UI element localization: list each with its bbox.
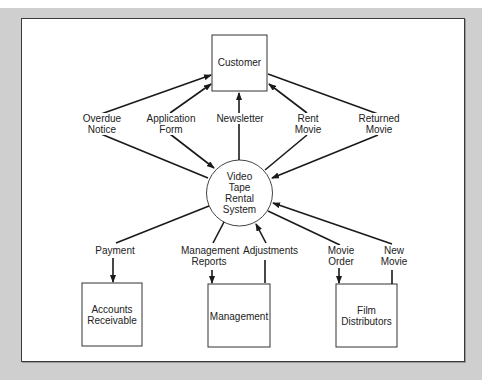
overdue-line-1: Overdue	[83, 113, 121, 124]
flow-application-form-upper	[170, 84, 211, 113]
appform-line-1: Application	[147, 113, 196, 124]
mgmtreports-line-1: Management	[181, 245, 239, 256]
mgmtreports-line-2: Reports	[191, 256, 226, 267]
film-distributors-label: Film Distributors	[336, 305, 397, 327]
movieorder-line-2: Order	[328, 256, 354, 267]
flow-application-form-lower	[170, 134, 214, 168]
rent-movie-label: Rent Movie	[290, 113, 326, 135]
returned-movie-label: Returned Movie	[353, 113, 405, 135]
flow-adjustments-upper	[256, 224, 266, 243]
returned-line-1: Returned	[358, 113, 399, 124]
accounts-receivable-line-1: Accounts	[91, 304, 132, 315]
newsletter-label: Newsletter	[211, 113, 269, 124]
flow-payment-upper	[116, 206, 209, 243]
overdue-notice-label: Overdue Notice	[74, 113, 130, 135]
flow-returned-movie-upper	[268, 74, 378, 114]
payment-text: Payment	[95, 245, 134, 256]
application-form-label: Application Form	[140, 113, 202, 135]
flow-rent-movie-upper	[269, 84, 307, 113]
adjustments-label: Adjustments	[242, 245, 298, 256]
newmovie-line-2: Movie	[381, 256, 408, 267]
appform-line-2: Form	[159, 124, 182, 135]
customer-label-text: Customer	[218, 57, 261, 68]
flow-movie-order-upper	[268, 211, 340, 245]
process-line-4: System	[223, 204, 256, 215]
process-line-2: Tape	[229, 182, 251, 193]
process-line-3: Rental	[225, 193, 254, 204]
process-label: Video Tape Rental System	[209, 171, 270, 215]
flow-management-reports-upper	[213, 222, 224, 243]
management-reports-label: Management Reports	[180, 245, 238, 267]
film-distributors-line-1: Film	[357, 305, 376, 316]
flow-new-movie-upper	[273, 203, 392, 244]
adjustments-text: Adjustments	[243, 245, 298, 256]
rent-line-2: Movie	[295, 124, 322, 135]
flow-returned-movie-lower	[272, 135, 378, 178]
management-label-text: Management	[210, 311, 268, 322]
accounts-receivable-line-2: Receivable	[87, 315, 136, 326]
flow-overdue-notice-upper	[101, 75, 211, 114]
film-distributors-line-2: Distributors	[341, 316, 392, 327]
rent-line-1: Rent	[297, 113, 318, 124]
customer-label: Customer	[212, 57, 267, 68]
newsletter-text: Newsletter	[216, 113, 263, 124]
flow-overdue-notice-lower	[101, 134, 208, 178]
newmovie-line-1: New	[384, 245, 404, 256]
movie-order-label: Movie Order	[322, 245, 360, 267]
returned-line-2: Movie	[366, 124, 393, 135]
overdue-line-2: Notice	[88, 124, 116, 135]
flow-rent-movie-lower	[265, 135, 307, 170]
management-label: Management	[208, 311, 270, 322]
accounts-receivable-label: Accounts Receivable	[82, 304, 142, 326]
new-movie-label: New Movie	[377, 245, 411, 267]
payment-label: Payment	[92, 245, 138, 256]
process-line-1: Video	[227, 171, 252, 182]
movieorder-line-1: Movie	[328, 245, 355, 256]
